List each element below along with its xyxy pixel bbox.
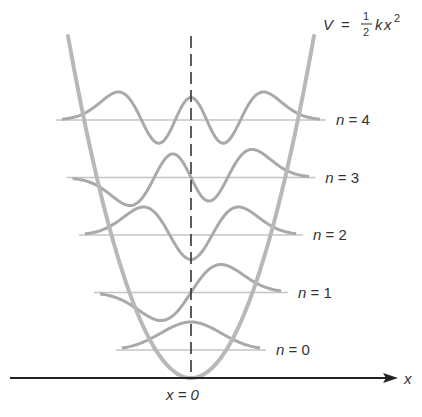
level-label-n0: n = 0 bbox=[276, 341, 310, 358]
potential-V: V bbox=[323, 16, 335, 33]
level-label-n1: n = 1 bbox=[298, 284, 332, 301]
level-label-n4: n = 4 bbox=[336, 111, 370, 128]
oscillator-diagram: x x = 0 V = 1 2 k x 2 n = 0n = 1n = 2n =… bbox=[0, 0, 422, 417]
potential-k: k bbox=[375, 16, 384, 33]
potential-fraction-denominator: 2 bbox=[363, 26, 369, 38]
level-label-n3: n = 3 bbox=[325, 169, 359, 186]
potential-equals: = bbox=[341, 16, 350, 33]
potential-x: x bbox=[383, 16, 392, 33]
x-axis-label: x bbox=[403, 370, 412, 387]
origin-label-text: x = 0 bbox=[165, 386, 200, 403]
level-label-n2: n = 2 bbox=[313, 226, 347, 243]
potential-label: V = 1 2 k x 2 bbox=[323, 10, 400, 38]
potential-fraction-numerator: 1 bbox=[363, 10, 369, 22]
potential-exponent: 2 bbox=[394, 12, 400, 24]
origin-label: x = 0 bbox=[165, 386, 200, 403]
